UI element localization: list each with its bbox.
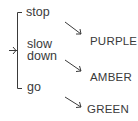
output-green: GREEN bbox=[87, 103, 129, 115]
label-down: down bbox=[27, 50, 57, 63]
label-go: go bbox=[27, 81, 41, 94]
arrow-icon bbox=[65, 60, 81, 72]
bracket bbox=[18, 13, 23, 89]
arrow-icon bbox=[65, 22, 81, 34]
arrow-icon bbox=[65, 97, 81, 108]
output-amber: AMBER bbox=[90, 71, 132, 83]
label-stop: stop bbox=[26, 6, 50, 19]
output-purple: PURPLE bbox=[90, 35, 137, 47]
